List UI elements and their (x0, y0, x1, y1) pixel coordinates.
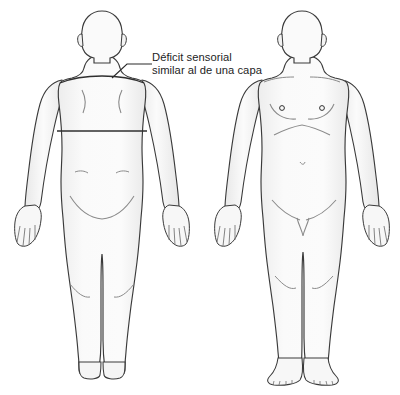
posterior-left-hand (15, 205, 42, 246)
posterior-head (81, 11, 122, 63)
annotation-line-1: Déficit sensorial (152, 51, 232, 63)
anatomy-illustration: Déficit sensorial similar al de una capa (0, 0, 400, 395)
anterior-right-ear (321, 34, 326, 46)
posterior-heel-left (79, 362, 101, 379)
posterior-right-hand (163, 205, 190, 246)
posterior-left-ear (78, 34, 83, 46)
nipple-left (280, 106, 285, 111)
anterior-left-ear (278, 34, 283, 46)
anterior-right-hand (363, 205, 390, 246)
annotation-label: Déficit sensorial similar al de una capa (152, 51, 262, 77)
annotation-line-2: similar al de una capa (152, 64, 262, 77)
posterior-torso-and-legs (58, 55, 145, 376)
posterior-heel-right (103, 362, 125, 379)
anterior-torso-and-legs (258, 55, 348, 374)
anterior-left-hand (215, 205, 242, 246)
nipple-right (320, 106, 325, 111)
anterior-foot-left (268, 358, 303, 385)
anterior-head (281, 11, 322, 63)
posterior-right-ear (121, 34, 126, 46)
anterior-foot-right (303, 358, 338, 385)
